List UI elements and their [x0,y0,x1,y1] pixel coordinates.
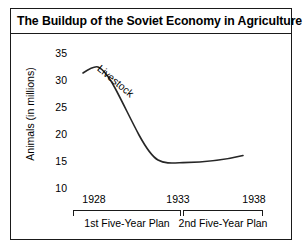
annotation-first-five-year-plan: 1st Five-Year Plan [84,218,169,229]
x-tick-1938: 1938 [242,194,265,205]
annotation-second-five-year-plan: 2nd Five-Year Plan [179,218,268,229]
x-tick-1933: 1933 [166,194,189,205]
chart-title-bar: The Buildup of the Soviet Economy in Agr… [11,9,291,34]
page-title: The Buildup of the Soviet Economy in Agr… [11,14,302,28]
bracket-first-plan [73,210,181,216]
livestock-line-series [11,34,293,239]
chart-figure: The Buildup of the Soviet Economy in Agr… [10,8,292,240]
bracket-second-plan [183,210,263,216]
x-tick-1928: 1928 [82,194,105,205]
plot-area: Animals (in millions) 35 30 25 20 15 10 … [11,34,293,239]
